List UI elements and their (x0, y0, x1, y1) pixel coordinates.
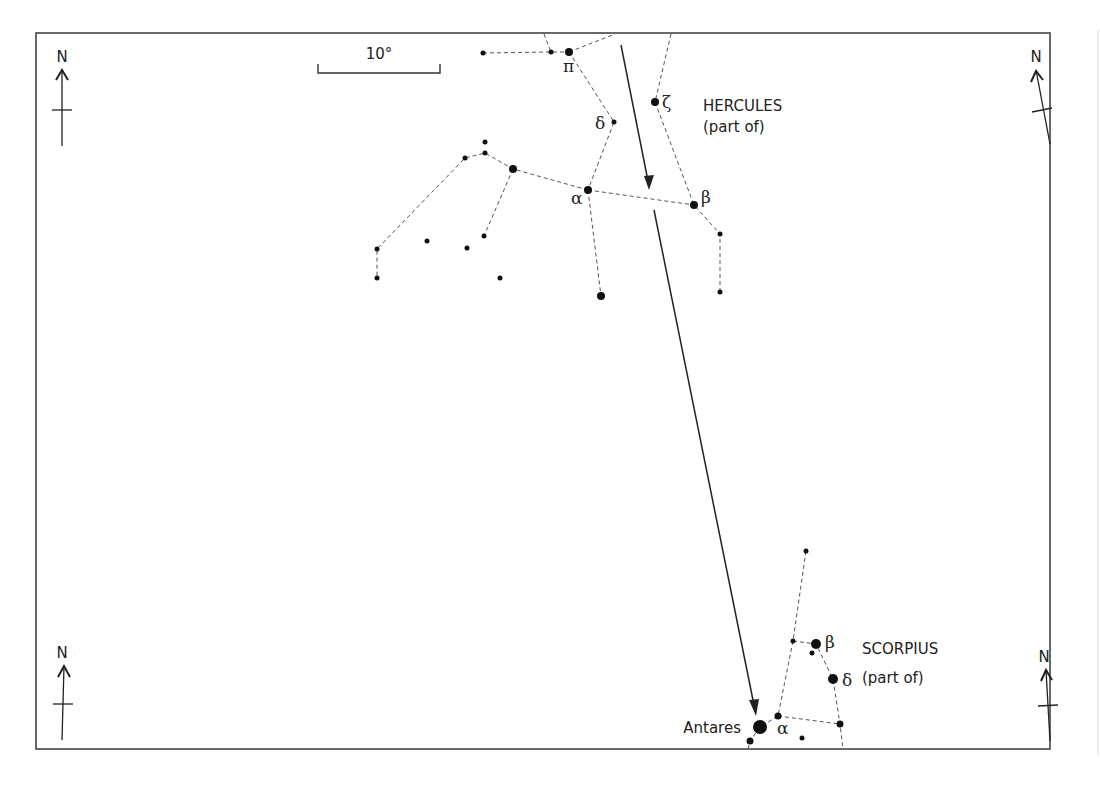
star-label-alpha: α (571, 188, 583, 208)
star-chart: 10° N N N N (0, 0, 1100, 789)
antares-label: Antares (683, 719, 741, 737)
north-arrow-icon: N (1030, 48, 1052, 144)
star-label-zeta: ζ (662, 92, 671, 112)
svg-text:N: N (1030, 48, 1041, 66)
star-label-beta: β (825, 632, 835, 652)
north-arrow-icon: N (52, 48, 72, 146)
path-arrow (621, 45, 759, 716)
hercules-name: HERCULES (703, 97, 782, 115)
star-label-alpha: α (777, 718, 789, 738)
scorpius-note: (part of) (862, 669, 924, 687)
scale-bar-label: 10° (366, 45, 393, 63)
star-label-beta: β (701, 187, 711, 207)
star-label-pi: π (563, 56, 574, 76)
svg-text:N: N (56, 644, 67, 662)
svg-text:N: N (56, 48, 67, 66)
star-label-delta: δ (595, 113, 605, 133)
hercules-note: (part of) (703, 118, 765, 136)
north-arrow-icon: N (1038, 648, 1058, 741)
scorpius-name: SCORPIUS (862, 640, 938, 658)
hercules-constellation: π δ ζ α β HERCULES (part of) (375, 34, 783, 300)
north-arrow-icon: N (53, 644, 73, 740)
star-label-delta: δ (842, 670, 852, 690)
scorpius-constellation: β δ α Antares SCORPIUS (part of) (683, 549, 938, 750)
scale-bar: 10° (318, 45, 440, 73)
svg-text:N: N (1038, 648, 1049, 666)
